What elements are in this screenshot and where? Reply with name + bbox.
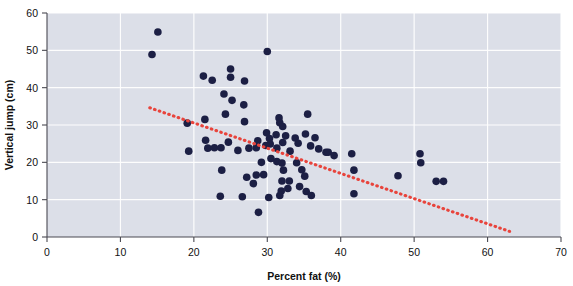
data-point: [243, 173, 251, 181]
data-point: [286, 177, 294, 185]
data-point: [211, 144, 219, 152]
data-point: [200, 72, 208, 80]
data-point: [260, 171, 268, 179]
data-point: [241, 77, 249, 85]
data-point: [330, 152, 338, 160]
data-point: [278, 177, 286, 185]
data-point: [265, 194, 273, 202]
x-axis-title: Percent fat (%): [267, 270, 341, 282]
data-point: [276, 192, 284, 200]
x-tick-label-40: 40: [335, 246, 347, 258]
y-axis-title: Vertical jump (cm): [3, 80, 15, 170]
data-point: [279, 123, 287, 131]
data-point: [301, 172, 309, 180]
data-point: [284, 185, 292, 193]
data-point: [350, 166, 358, 174]
data-point: [234, 147, 242, 155]
data-point: [217, 144, 225, 152]
data-point: [266, 140, 274, 148]
x-tick-label-10: 10: [115, 246, 127, 258]
data-point: [201, 116, 209, 124]
data-point: [225, 138, 233, 146]
data-point: [302, 130, 310, 138]
data-point: [185, 147, 193, 155]
data-point: [263, 48, 271, 56]
y-tick-label-20: 20: [26, 156, 38, 168]
data-point: [227, 65, 235, 73]
data-point: [218, 166, 226, 174]
data-point: [311, 134, 319, 142]
data-point: [304, 110, 312, 118]
data-point: [416, 150, 424, 158]
y-tick-label-50: 50: [26, 44, 38, 56]
data-point: [216, 193, 224, 201]
x-tick-label-70: 70: [555, 246, 567, 258]
data-point: [278, 159, 286, 167]
data-point: [417, 159, 425, 167]
chart-canvas: 010203040506070 0102030405060 Percent fa…: [0, 0, 573, 286]
data-point: [308, 192, 316, 200]
data-point: [307, 142, 315, 150]
data-point: [241, 118, 249, 126]
data-point: [394, 172, 402, 180]
y-tick-label-0: 0: [32, 231, 38, 243]
data-point: [222, 110, 230, 118]
data-point: [282, 132, 290, 140]
data-point: [432, 178, 440, 186]
data-point: [294, 139, 302, 147]
x-tick-label-20: 20: [188, 246, 200, 258]
data-point: [258, 159, 266, 167]
data-point: [440, 178, 448, 186]
data-point: [350, 190, 358, 198]
data-point: [148, 51, 156, 59]
x-tick-label-60: 60: [482, 246, 494, 258]
data-point: [240, 101, 248, 109]
data-point: [154, 28, 162, 36]
data-point: [250, 180, 258, 188]
data-point: [293, 159, 301, 167]
data-point: [202, 137, 210, 145]
y-tick-label-40: 40: [26, 82, 38, 94]
data-point: [267, 155, 275, 163]
scatter-plot-figure: 010203040506070 0102030405060 Percent fa…: [0, 0, 573, 286]
x-tick-label-50: 50: [408, 246, 420, 258]
y-tick-label-10: 10: [26, 194, 38, 206]
x-tick-label-30: 30: [261, 246, 273, 258]
data-point: [348, 150, 356, 158]
data-point: [227, 73, 235, 81]
data-point: [245, 144, 253, 152]
data-point: [220, 90, 228, 98]
data-point: [272, 131, 280, 139]
data-point: [208, 76, 216, 84]
data-point: [255, 209, 263, 217]
data-point: [239, 193, 247, 201]
data-point: [204, 144, 212, 152]
y-tick-label-30: 30: [26, 119, 38, 131]
data-point: [252, 171, 260, 179]
x-tick-label-0: 0: [44, 246, 50, 258]
data-point: [228, 97, 236, 105]
y-tick-label-60: 60: [26, 7, 38, 19]
data-point: [280, 166, 288, 174]
data-point: [296, 183, 304, 191]
data-point: [315, 145, 323, 153]
data-point: [279, 139, 287, 147]
